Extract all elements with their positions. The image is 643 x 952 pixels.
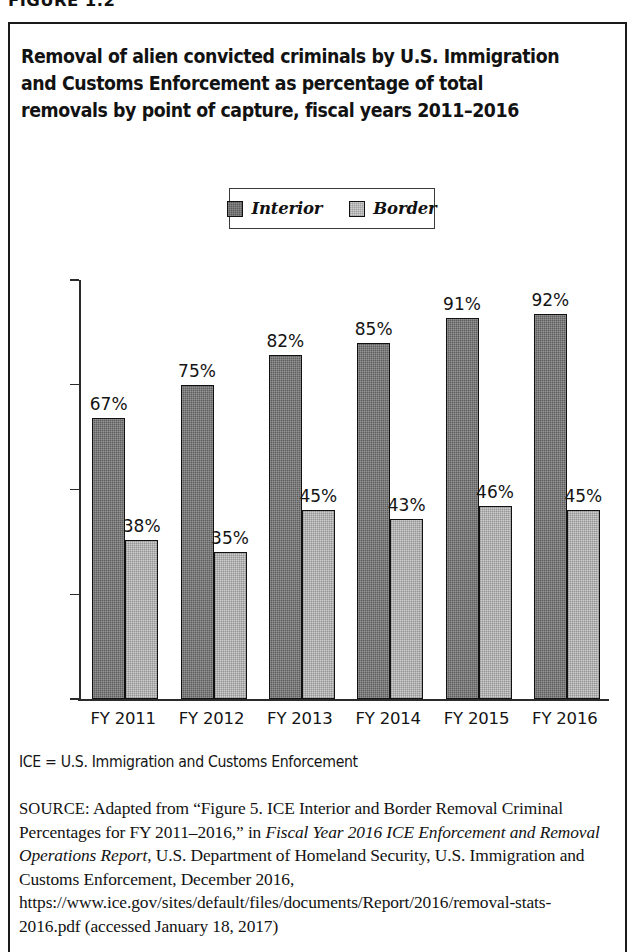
- legend-item-border[interactable]: Border: [349, 199, 436, 218]
- bar-border-fy2015: [479, 506, 512, 699]
- bar-interior-fy2011: [92, 418, 125, 699]
- x-axis-label-fy2014: FY 2014: [344, 709, 432, 728]
- bar-border-fy2013: [302, 510, 335, 699]
- bar-value-label: 43%: [382, 495, 431, 515]
- bar-border-fy2016: [567, 510, 600, 699]
- bar-value-label: 91%: [438, 294, 487, 314]
- bar-value-label: 46%: [471, 482, 520, 502]
- legend-label-border: Border: [373, 199, 436, 218]
- bar-value-label: 38%: [117, 516, 166, 536]
- figure-number: FIGURE 1.2: [8, 0, 115, 10]
- x-axis-label-fy2013: FY 2013: [256, 709, 344, 728]
- legend-label-interior: Interior: [251, 199, 322, 218]
- bar-interior-fy2013: [269, 355, 302, 699]
- bar-border-fy2011: [125, 540, 158, 699]
- bar-value-label: 75%: [173, 361, 222, 381]
- chart-title: Removal of alien convicted criminals by …: [21, 43, 575, 124]
- legend-item-interior[interactable]: Interior: [227, 199, 322, 218]
- bar-value-label: 35%: [206, 528, 255, 548]
- x-axis-label-fy2011: FY 2011: [79, 709, 167, 728]
- bar-value-label: 67%: [84, 394, 133, 414]
- y-axis-tick: [70, 279, 79, 280]
- x-axis-label-fy2012: FY 2012: [167, 709, 255, 728]
- x-axis-line: [78, 699, 609, 701]
- bar-value-label: 45%: [294, 486, 343, 506]
- x-axis-label-fy2015: FY 2015: [432, 709, 520, 728]
- bar-border-fy2012: [214, 552, 247, 699]
- bar-interior-fy2015: [446, 318, 479, 699]
- chart-plot-area: 0%25%50%75%100% 67%38%75%35%82%45%85%43%…: [79, 280, 609, 699]
- legend-swatch-interior-icon: [227, 201, 243, 217]
- y-axis-tick: [70, 384, 79, 385]
- bar-interior-fy2014: [357, 343, 390, 699]
- y-axis-line: [79, 280, 81, 699]
- source-note: SOURCE: Adapted from “Figure 5. ICE Inte…: [19, 797, 604, 939]
- y-axis-tick: [70, 594, 79, 595]
- footnote-abbreviation: ICE = U.S. Immigration and Customs Enfor…: [19, 753, 358, 771]
- x-axis-label-fy2016: FY 2016: [521, 709, 609, 728]
- bar-value-label: 82%: [261, 331, 310, 351]
- source-label: SOURCE:: [19, 799, 90, 818]
- bar-value-label: 85%: [349, 319, 398, 339]
- chart-legend: Interior Border: [229, 188, 435, 229]
- y-axis-tick: [70, 698, 79, 699]
- bar-value-label: 45%: [559, 486, 608, 506]
- y-axis-tick: [70, 489, 79, 490]
- legend-swatch-border-icon: [349, 201, 365, 217]
- bar-border-fy2014: [390, 519, 423, 699]
- bar-value-label: 92%: [526, 290, 575, 310]
